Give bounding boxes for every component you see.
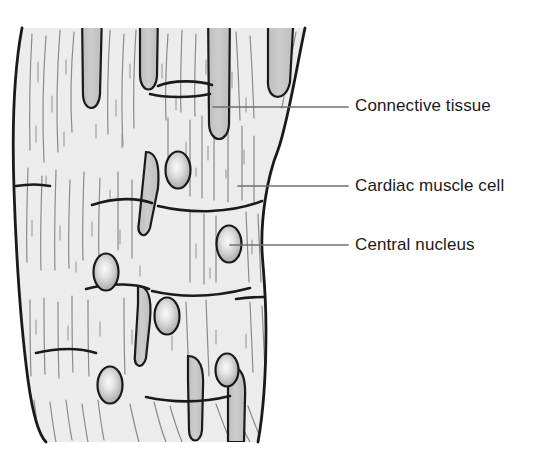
label-central-nucleus: Central nucleus xyxy=(355,236,475,253)
nucleus xyxy=(155,298,180,335)
label-connective-tissue: Connective tissue xyxy=(355,97,491,114)
connective-band xyxy=(82,12,102,108)
connective-band xyxy=(268,10,294,97)
nucleus xyxy=(217,226,242,263)
nucleus xyxy=(216,354,239,387)
nucleus xyxy=(98,367,123,404)
connective-band xyxy=(208,8,230,139)
nucleus xyxy=(166,152,191,189)
connective-band xyxy=(140,10,158,90)
cardiac-muscle-figure: Connective tissue Cardiac muscle cell Ce… xyxy=(0,0,551,472)
label-cardiac-muscle-cell: Cardiac muscle cell xyxy=(355,177,504,194)
nucleus xyxy=(94,254,119,291)
connective-band xyxy=(188,356,203,441)
